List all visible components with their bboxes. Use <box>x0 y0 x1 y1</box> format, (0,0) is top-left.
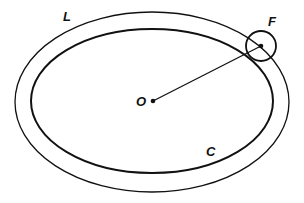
ellipse-diagram: L F O C <box>0 0 304 203</box>
label-F: F <box>268 15 276 28</box>
label-L: L <box>63 10 71 23</box>
point-O <box>151 99 156 104</box>
radius-line-O-to-F <box>153 46 261 101</box>
point-F <box>259 44 264 49</box>
label-O: O <box>136 95 146 108</box>
diagram-canvas <box>0 0 304 203</box>
label-C: C <box>206 145 215 158</box>
